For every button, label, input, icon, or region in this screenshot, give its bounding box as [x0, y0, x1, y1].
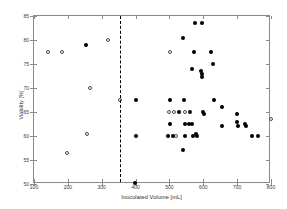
- y-tick-label: 50: [23, 182, 29, 187]
- x-tick-top: [68, 16, 69, 19]
- data-point-filled: [188, 110, 192, 114]
- y-tick-right: [266, 16, 269, 17]
- x-tick-label: 800: [267, 185, 275, 190]
- data-point-open: [106, 38, 110, 42]
- y-tick-label: 60: [23, 134, 29, 139]
- data-point-open: [183, 110, 187, 114]
- data-point-filled: [244, 124, 248, 128]
- data-point-filled: [134, 134, 138, 138]
- data-point-filled: [220, 124, 224, 128]
- y-tick-label: 70: [23, 86, 29, 91]
- data-point-filled: [181, 148, 185, 152]
- data-point-filled: [171, 134, 175, 138]
- data-point-filled: [183, 134, 187, 138]
- data-point-open: [172, 110, 176, 114]
- x-tick-top: [271, 16, 272, 19]
- data-point-filled: [193, 21, 197, 25]
- y-tick-right: [266, 160, 269, 161]
- data-point-open: [65, 151, 69, 155]
- data-point-filled: [256, 134, 260, 138]
- y-tick-inner: [34, 112, 37, 113]
- data-point-filled: [177, 110, 181, 114]
- data-point-filled: [192, 50, 196, 54]
- x-tick-label: 100: [30, 185, 38, 190]
- data-point-filled: [235, 112, 239, 116]
- y-tick-label: 55: [23, 158, 29, 163]
- y-tick-label: 85: [23, 14, 29, 19]
- x-tick-label: 200: [64, 185, 72, 190]
- data-point-open: [269, 117, 273, 121]
- x-axis-title: Inoculated Volume [mL]: [33, 194, 270, 200]
- x-tick-inner: [169, 179, 170, 182]
- scatter-chart-figure: Viability [%] Inoculated Volume [mL] 505…: [0, 0, 287, 209]
- x-tick-label: 700: [233, 185, 241, 190]
- y-tick-right: [266, 136, 269, 137]
- x-tick-inner: [237, 179, 238, 182]
- data-point-filled: [212, 98, 216, 102]
- data-point-filled: [166, 134, 170, 138]
- data-point-filled: [209, 50, 213, 54]
- y-tick-right: [266, 112, 269, 113]
- data-point-filled: [134, 98, 138, 102]
- y-axis-title: Viability [%]: [18, 90, 24, 119]
- x-tick-inner: [203, 179, 204, 182]
- data-point-filled: [190, 122, 194, 126]
- x-tick-top: [169, 16, 170, 19]
- y-tick-inner: [34, 40, 37, 41]
- data-point-filled: [202, 112, 206, 116]
- x-tick-top: [136, 16, 137, 19]
- x-tick-inner: [271, 179, 272, 182]
- y-tick-inner: [34, 160, 37, 161]
- data-point-filled: [133, 181, 137, 185]
- data-point-filled: [211, 62, 215, 66]
- plot-area: 5055606570758085 10020030040050060070080…: [33, 15, 270, 183]
- y-tick-right: [266, 40, 269, 41]
- x-tick-top: [203, 16, 204, 19]
- data-point-filled: [235, 120, 239, 124]
- data-point-filled: [190, 67, 194, 71]
- data-point-open: [88, 86, 92, 90]
- x-tick-top: [102, 16, 103, 19]
- x-tick-inner: [34, 179, 35, 182]
- x-tick-label: 600: [199, 185, 207, 190]
- x-tick-inner: [68, 179, 69, 182]
- data-point-open: [46, 50, 50, 54]
- data-point-filled: [220, 105, 224, 109]
- data-point-filled: [181, 36, 185, 40]
- data-point-filled: [168, 98, 172, 102]
- data-point-open: [167, 110, 171, 114]
- x-tick-label: 300: [98, 185, 106, 190]
- x-tick-label: 400: [131, 185, 139, 190]
- data-point-open: [168, 50, 172, 54]
- y-tick-right: [266, 88, 269, 89]
- x-tick-label: 500: [165, 185, 173, 190]
- y-tick-label: 65: [23, 110, 29, 115]
- data-point-filled: [236, 124, 240, 128]
- threshold-line: [120, 16, 121, 182]
- y-tick-inner: [34, 64, 37, 65]
- x-tick-top: [237, 16, 238, 19]
- data-point-open: [60, 50, 64, 54]
- x-tick-inner: [102, 179, 103, 182]
- y-tick-right: [266, 64, 269, 65]
- data-point-filled: [200, 75, 204, 79]
- data-point-filled: [182, 98, 186, 102]
- y-tick-label: 80: [23, 38, 29, 43]
- data-point-filled: [250, 134, 254, 138]
- data-point-open: [85, 132, 89, 136]
- data-point-filled: [200, 21, 204, 25]
- data-point-filled: [84, 43, 88, 47]
- y-tick-inner: [34, 136, 37, 137]
- y-tick-label: 75: [23, 62, 29, 67]
- data-point-filled: [168, 122, 172, 126]
- data-point-filled: [195, 134, 199, 138]
- y-tick-inner: [34, 88, 37, 89]
- x-tick-top: [34, 16, 35, 19]
